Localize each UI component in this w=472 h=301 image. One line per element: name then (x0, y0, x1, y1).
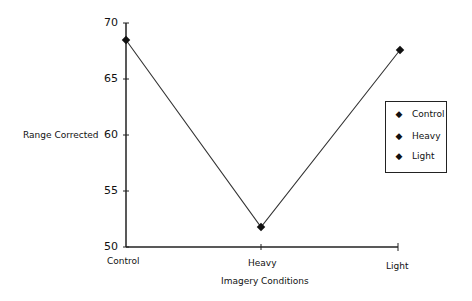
diamond-marker-icon: ◆ (392, 131, 406, 141)
legend-item-heavy: ◆ Heavy (392, 131, 440, 141)
y-tick-55: 55 (104, 184, 118, 197)
y-tick-60: 60 (104, 128, 118, 141)
diamond-marker-icon: ◆ (392, 109, 406, 119)
legend-item-light: ◆ Light (392, 151, 434, 161)
x-tick-heavy: Heavy (248, 258, 276, 268)
data-point-control (122, 36, 130, 44)
y-axis-label: Range Corrected (23, 130, 99, 140)
legend-label: Control (412, 109, 445, 119)
legend-label: Light (412, 151, 434, 161)
x-axis-label: Imagery Conditions (221, 276, 309, 286)
chart-legend: ◆ Control ◆ Heavy ◆ Light (385, 101, 447, 173)
y-tick-50: 50 (104, 240, 118, 253)
x-tick-control: Control (107, 256, 140, 266)
y-tick-70: 70 (104, 16, 118, 29)
legend-item-control: ◆ Control (392, 109, 445, 119)
legend-label: Heavy (412, 131, 440, 141)
y-tick-65: 65 (104, 72, 118, 85)
data-series-line (126, 40, 400, 227)
x-tick-light: Light (386, 261, 408, 271)
diamond-marker-icon: ◆ (392, 151, 406, 161)
